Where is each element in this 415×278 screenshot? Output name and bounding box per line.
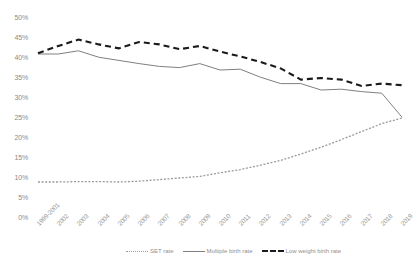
legend-swatch-icon [262,250,284,252]
chart-series-line [38,40,402,86]
chart-series-line [38,118,402,182]
legend-label: Multiple birth rate [207,248,253,254]
chart-plot-area [0,0,415,278]
legend-label: SET rate [150,248,174,254]
legend-swatch-icon [126,251,148,252]
legend-item[interactable]: Low weight birth rate [262,248,341,254]
legend-swatch-icon [183,251,205,252]
chart-legend: SET rateMultiple birth rateLow weight bi… [126,248,341,254]
chart-series-line [38,51,402,117]
chart-container: 50%45%40%35%30%25%20%15%10%5%0% 1999-200… [0,0,415,278]
legend-item[interactable]: SET rate [126,248,174,254]
legend-item[interactable]: Multiple birth rate [183,248,253,254]
legend-label: Low weight birth rate [286,248,341,254]
